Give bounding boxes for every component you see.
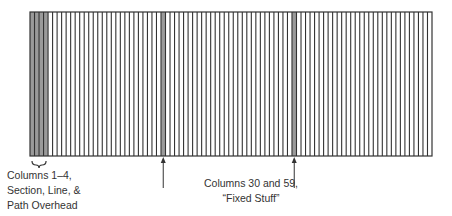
fixed-stuff-label-line-2: “Fixed Stuff”: [186, 191, 316, 206]
overhead-columns-label: Columns 1–4, Section, Line, & Path Overh…: [7, 168, 81, 213]
highlighted-column: [30, 12, 35, 156]
overhead-label-line-3: Path Overhead: [7, 198, 81, 213]
overhead-label-line-1: Columns 1–4,: [7, 168, 81, 183]
highlighted-column: [161, 12, 166, 156]
overhead-label-line-2: Section, Line, &: [7, 183, 81, 198]
brace-icon: [32, 161, 46, 168]
fixed-stuff-label-line-1: Columns 30 and 59,: [186, 176, 316, 191]
arrow-up-icon: [292, 157, 297, 163]
highlighted-column: [44, 12, 49, 156]
arrow-up-icon: [161, 157, 166, 163]
column-grid: [30, 12, 432, 156]
highlighted-column: [39, 12, 44, 156]
highlighted-column: [292, 12, 297, 156]
grid-background: [30, 12, 432, 156]
highlighted-column: [35, 12, 40, 156]
fixed-stuff-columns-label: Columns 30 and 59, “Fixed Stuff”: [186, 176, 316, 206]
